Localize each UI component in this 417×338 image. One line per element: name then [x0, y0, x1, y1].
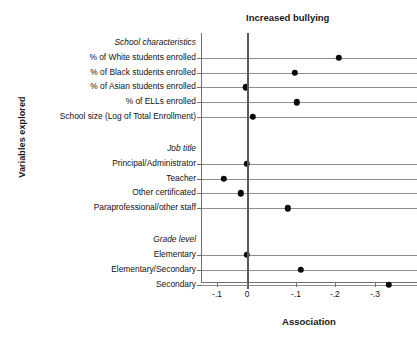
- grid-line: [201, 58, 417, 59]
- grid-line: [201, 208, 417, 209]
- category-label: Elementary/Secondary: [111, 265, 196, 274]
- category-label: % of White students enrolled: [89, 53, 196, 62]
- x-tick-mark: [375, 282, 376, 287]
- grid-line: [201, 117, 417, 118]
- x-axis-title: Association: [201, 316, 417, 327]
- grid-line: [201, 164, 417, 165]
- category-label: Teacher: [166, 174, 196, 183]
- y-axis-tick: [197, 73, 202, 74]
- x-tick-mark: [296, 282, 297, 287]
- data-point: [221, 175, 227, 181]
- category-label: % of Asian students enrolled: [90, 82, 196, 91]
- x-tick-label: -.2: [330, 289, 340, 299]
- grid-line: [201, 193, 417, 194]
- group-heading-1: School characteristics: [115, 38, 196, 47]
- category-label: Secondary: [156, 280, 196, 289]
- x-tick-mark: [217, 282, 218, 287]
- grid-line: [201, 73, 417, 74]
- category-label: Elementary: [154, 250, 196, 259]
- y-axis-tick: [197, 255, 202, 256]
- chart-figure: Variables explored Increased bullying Sc…: [0, 0, 417, 338]
- grid-line: [201, 270, 417, 271]
- category-label: School size (Log of Total Enrollment): [60, 112, 196, 121]
- data-point: [250, 114, 256, 120]
- x-axis-line: [201, 282, 417, 283]
- x-tick-label: -.1: [291, 289, 301, 299]
- grid-line: [201, 102, 417, 103]
- y-axis-tick: [197, 87, 202, 88]
- y-axis-tick: [197, 102, 202, 103]
- x-tick-label: 0: [245, 289, 250, 299]
- grid-line: [201, 87, 417, 88]
- x-tick-label: -.1: [212, 289, 222, 299]
- category-label: Other certificated: [132, 188, 196, 197]
- data-point: [285, 205, 291, 211]
- plot-area: -.10-.1-.2-.3: [201, 33, 417, 283]
- data-point: [292, 69, 298, 75]
- grid-line: [201, 255, 417, 256]
- y-axis-tick: [197, 270, 202, 271]
- y-axis-line: [201, 33, 202, 283]
- grid-line: [201, 179, 417, 180]
- data-point: [298, 267, 304, 273]
- data-point: [238, 190, 244, 196]
- group-heading-3: Grade level: [153, 235, 196, 244]
- x-tick-label: -.3: [370, 289, 380, 299]
- y-axis-tick: [197, 164, 202, 165]
- category-label: Principal/Administrator: [112, 159, 196, 168]
- y-axis-title: Variables explored: [17, 82, 27, 192]
- category-label: % of Black students enrolled: [90, 68, 196, 77]
- x-tick-mark: [335, 282, 336, 287]
- grid-line: [201, 285, 417, 286]
- y-axis-tick: [197, 58, 202, 59]
- y-axis-tick: [197, 208, 202, 209]
- group-heading-2: Job title: [167, 144, 196, 153]
- y-axis-tick: [197, 285, 202, 286]
- zero-reference-line: [247, 33, 249, 289]
- y-axis-tick: [197, 117, 202, 118]
- chart-title: Increased bullying: [246, 12, 416, 23]
- category-label: % of ELLs enrolled: [126, 97, 196, 106]
- x-tick-mark: [247, 282, 248, 287]
- data-point: [294, 99, 300, 105]
- category-label: Paraprofessional/other staff: [94, 203, 196, 212]
- data-point: [386, 281, 392, 287]
- y-axis-tick: [197, 179, 202, 180]
- y-axis-tick: [197, 193, 202, 194]
- data-point: [336, 55, 342, 61]
